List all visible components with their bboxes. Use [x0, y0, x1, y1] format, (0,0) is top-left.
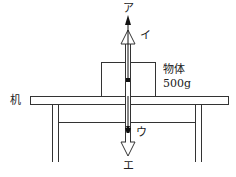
arrow-u-label: ウ: [136, 127, 147, 138]
object-mass-label: 500g: [163, 78, 191, 89]
table-label: 机: [10, 95, 21, 106]
arrow-i-label: イ: [140, 30, 151, 41]
arrow-e-head: [121, 142, 135, 156]
action-point: [126, 78, 130, 82]
arrow-e-label: エ: [123, 160, 134, 171]
object-name-label: 物体: [163, 64, 185, 75]
diagram-canvas: [0, 0, 236, 177]
arrow-e-neck: [126, 133, 130, 143]
arrow-a-label: ア: [123, 3, 134, 14]
arrow-a-head: [125, 15, 131, 25]
